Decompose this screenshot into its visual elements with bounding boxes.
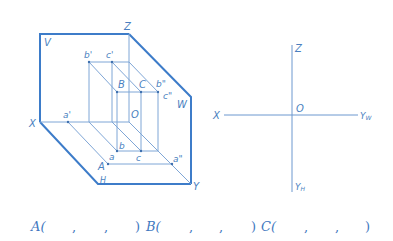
answer-b-close: ) (251, 219, 256, 234)
label-b: b (119, 141, 125, 151)
answer-a-comma-1: , (72, 219, 76, 234)
answer-a-open: A( (30, 219, 46, 234)
answer-c-open: C( (261, 219, 277, 234)
answer-c-comma-1: , (304, 219, 308, 234)
answer-a-comma-2: , (104, 219, 108, 234)
label-a: a (109, 152, 115, 162)
answer-b-open: B( (145, 219, 162, 234)
answer-row: A( , , ) B( , , ) C( , , ) (30, 219, 370, 234)
label-origin: O (131, 109, 139, 120)
label-h-plane: H (100, 176, 106, 185)
label-o: O (296, 103, 304, 114)
label-point-a: A (97, 161, 105, 172)
label-c-dprime: c" (163, 91, 172, 101)
label-point-b: B (118, 79, 125, 90)
label-v-plane: V (44, 37, 52, 48)
label-y-axis: Y (193, 181, 200, 192)
answer-b-comma-1: , (189, 219, 193, 234)
label-point-c: C (139, 79, 146, 90)
label-x-axis: X (28, 118, 37, 129)
answer-c-comma-2: , (335, 219, 339, 234)
label-a-prime: a' (63, 110, 71, 120)
label-z-axis: Z (123, 21, 132, 32)
label-z: Z (294, 43, 303, 54)
label-yh: YH (295, 182, 306, 192)
answer-b-comma-2: , (219, 219, 223, 234)
label-c-prime: c' (106, 50, 113, 60)
answer-a-close: ) (135, 219, 140, 234)
label-a-dprime: a" (173, 154, 183, 164)
projection-diagram: V Z W X Y H O b' c' B C b" c" a' b c a A… (0, 0, 393, 241)
three-plane-box: V Z W X Y H O b' c' B C b" c" a' b c a A… (28, 21, 200, 192)
v-plane-outline (40, 34, 129, 122)
label-yw: YW (360, 111, 373, 121)
label-w-plane: W (177, 99, 188, 110)
label-b-prime: b' (84, 50, 92, 60)
label-c: c (136, 153, 141, 163)
label-b-dprime: b" (156, 79, 166, 89)
answer-c-close: ) (365, 219, 370, 234)
h-plane-outline (40, 122, 191, 184)
projection-axes: X Z O YW YH (212, 43, 373, 192)
label-x: X (212, 110, 221, 121)
